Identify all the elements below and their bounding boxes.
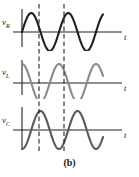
axis-label-vl-sub: L: [6, 73, 9, 79]
figure-container: vR t vL t vC t (b): [0, 0, 139, 177]
waveform-vr-svg: [0, 0, 139, 51]
waveform-curve: [22, 64, 103, 99]
time-axis-label-vl: t: [124, 84, 126, 93]
waveform-vc-svg: [0, 99, 139, 152]
plot-vl: [0, 51, 139, 99]
axis-label-vr: vR: [2, 18, 10, 29]
time-axis-label-vr: t: [124, 33, 126, 42]
axis-label-vc-sub: C: [6, 121, 10, 127]
axis-label-vr-sub: R: [6, 23, 10, 29]
plot-vc: [0, 99, 139, 152]
plot-vr: [0, 0, 139, 51]
waveform-vl-svg: [0, 51, 139, 99]
figure-caption: (b): [0, 157, 139, 168]
axis-label-vl: vL: [2, 68, 9, 79]
axis-label-vc: vC: [2, 116, 10, 127]
time-axis-label-vc: t: [124, 131, 126, 140]
